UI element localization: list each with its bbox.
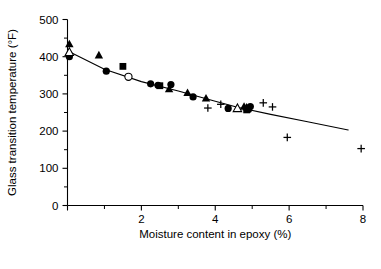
data-point-filled-circle — [103, 68, 110, 75]
data-point-filled-triangle — [95, 51, 103, 59]
x-axis-title: Moisture content in epoxy (%) — [139, 228, 291, 240]
data-point-filled-square — [156, 82, 163, 89]
data-point-filled-circle — [225, 105, 232, 112]
y-tick-label: 400 — [39, 51, 58, 63]
y-tick-label: 200 — [39, 125, 58, 137]
y-tick-label: 0 — [52, 200, 58, 212]
y-tick-label: 100 — [39, 162, 58, 174]
y-axis-title: Glass transition temperature (°F) — [6, 29, 18, 196]
data-point-filled-square — [120, 63, 127, 70]
x-tick-label: 2 — [138, 213, 144, 225]
scatter-plot: 01002003004005002468Moisture content in … — [0, 0, 381, 269]
data-point-open-triangle — [65, 48, 73, 56]
data-point-open-circle — [125, 73, 132, 80]
x-tick-label: 4 — [212, 213, 219, 225]
trend-line — [69, 52, 348, 130]
chart-figure: 01002003004005002468Moisture content in … — [0, 0, 381, 269]
data-point-filled-triangle — [65, 40, 73, 48]
x-tick-label: 8 — [360, 213, 366, 225]
x-tick-label: 6 — [286, 213, 292, 225]
data-point-filled-circle — [147, 80, 154, 87]
y-tick-label: 300 — [39, 88, 58, 100]
y-tick-label: 500 — [39, 14, 58, 26]
